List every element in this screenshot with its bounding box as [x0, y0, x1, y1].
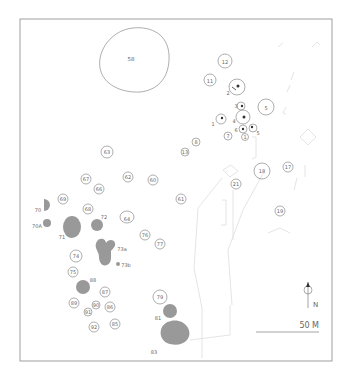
svg-text:69: 69: [60, 196, 66, 202]
scale-bar: 50 M: [256, 321, 319, 333]
svg-text:88: 88: [90, 277, 96, 283]
svg-text:5: 5: [264, 105, 267, 111]
svg-text:67: 67: [83, 176, 89, 182]
svg-text:17: 17: [285, 164, 291, 170]
feature-58[interactable]: 58: [100, 28, 169, 92]
feature-66[interactable]: 66: [94, 184, 104, 194]
feature-68[interactable]: 68: [83, 204, 93, 214]
feature-88[interactable]: 88: [76, 277, 96, 294]
feature-1[interactable]: 1: [211, 114, 226, 127]
svg-text:58: 58: [128, 56, 135, 62]
feature-92[interactable]: 92: [89, 322, 99, 332]
svg-text:6: 6: [234, 127, 237, 133]
feature-85[interactable]: 85: [110, 319, 120, 329]
feature-70[interactable]: 70: [35, 199, 50, 213]
feature-83[interactable]: 83: [151, 320, 190, 355]
feature-90[interactable]: 90: [92, 301, 100, 309]
north-label: N: [313, 301, 318, 309]
feature-62[interactable]: 62: [123, 172, 133, 182]
svg-text:11: 11: [207, 78, 213, 84]
feature-64[interactable]: 64: [120, 211, 134, 223]
feature-7[interactable]: 7: [224, 132, 232, 140]
svg-text:8: 8: [194, 139, 197, 145]
svg-text:71: 71: [59, 234, 65, 240]
svg-text:21: 21: [233, 181, 239, 187]
north-arrow: N: [304, 282, 318, 309]
svg-text:60: 60: [150, 177, 156, 183]
feature-12[interactable]: 12: [218, 54, 232, 68]
svg-text:70A: 70A: [32, 223, 42, 229]
svg-text:1: 1: [211, 121, 214, 127]
feature-87[interactable]: 87: [100, 287, 110, 297]
feature-5[interactable]: 5: [258, 99, 274, 115]
svg-text:72: 72: [101, 214, 107, 220]
feature-74[interactable]: 74: [70, 250, 82, 262]
feature-75[interactable]: 75: [68, 267, 78, 277]
svg-text:92: 92: [91, 324, 97, 330]
feature-17[interactable]: 17: [283, 162, 293, 172]
svg-text:12: 12: [222, 59, 228, 65]
svg-text:77: 77: [157, 241, 163, 247]
scale-label: 50 M: [299, 321, 319, 330]
svg-text:2: 2: [226, 90, 229, 96]
svg-text:87: 87: [102, 289, 108, 295]
feature-63[interactable]: 63: [101, 146, 113, 158]
svg-text:73a: 73a: [117, 246, 126, 252]
feature-72[interactable]: 72: [91, 214, 107, 231]
svg-text:73b: 73b: [121, 262, 131, 268]
svg-text:76: 76: [142, 232, 148, 238]
feature-6[interactable]: 6: [234, 125, 247, 133]
feature-73b[interactable]: 73b: [116, 262, 131, 268]
feature-71[interactable]: 71: [59, 216, 81, 240]
svg-text:91: 91: [85, 309, 91, 315]
feature-11[interactable]: 11: [204, 74, 216, 86]
svg-text:86: 86: [107, 304, 113, 310]
svg-text:83: 83: [151, 349, 157, 355]
feature-3[interactable]: 3: [234, 102, 245, 110]
feature-67[interactable]: 67: [81, 174, 91, 184]
svg-text:81: 81: [155, 315, 161, 321]
feature-69[interactable]: 69: [58, 194, 68, 204]
feature-2[interactable]: 2: [226, 79, 245, 96]
feature-18[interactable]: 18: [254, 163, 270, 179]
svg-text:5: 5: [256, 130, 259, 136]
svg-text:70: 70: [35, 207, 41, 213]
svg-text:61: 61: [178, 196, 184, 202]
svg-text:63: 63: [104, 149, 110, 155]
feature-13[interactable]: 13: [181, 148, 189, 156]
feature-60[interactable]: 60: [148, 175, 158, 185]
feature-86[interactable]: 86: [105, 302, 115, 312]
svg-text:3: 3: [234, 103, 237, 109]
feature-76[interactable]: 76: [140, 230, 150, 240]
site-map: 58 12 11 2 5 3 4 1 6 5 7 1 8 13 63 67 62…: [0, 0, 348, 379]
svg-text:68: 68: [85, 206, 91, 212]
feature-79[interactable]: 79: [153, 290, 167, 304]
svg-text:13: 13: [182, 149, 188, 155]
svg-text:66: 66: [96, 186, 102, 192]
svg-text:7: 7: [226, 133, 229, 139]
feature-91[interactable]: 91: [84, 308, 92, 316]
feature-1b[interactable]: 1: [242, 134, 249, 141]
svg-text:90: 90: [93, 302, 99, 308]
feature-70a[interactable]: 70A: [32, 219, 51, 229]
faint-structures: [190, 42, 320, 358]
feature-5b[interactable]: 5: [249, 124, 260, 136]
svg-text:1: 1: [243, 134, 246, 140]
svg-text:89: 89: [71, 300, 77, 306]
feature-21[interactable]: 21: [231, 179, 241, 189]
feature-8[interactable]: 8: [192, 138, 200, 146]
feature-81[interactable]: 81: [155, 304, 177, 321]
feature-4[interactable]: 4: [232, 110, 250, 124]
svg-text:4: 4: [232, 118, 235, 124]
svg-text:85: 85: [112, 321, 118, 327]
feature-61[interactable]: 61: [176, 194, 186, 204]
svg-text:79: 79: [157, 294, 163, 300]
svg-text:18: 18: [259, 168, 265, 174]
feature-89[interactable]: 89: [69, 298, 79, 308]
svg-text:75: 75: [70, 269, 76, 275]
svg-text:74: 74: [73, 253, 79, 259]
feature-19[interactable]: 19: [275, 206, 285, 216]
svg-text:62: 62: [125, 174, 131, 180]
feature-77[interactable]: 77: [155, 239, 165, 249]
svg-text:19: 19: [277, 208, 283, 214]
